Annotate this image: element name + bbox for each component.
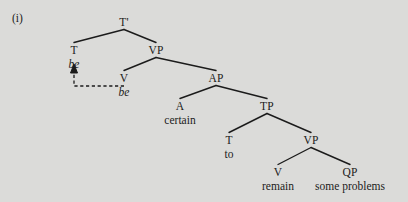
tree-node-v2: V: [274, 166, 283, 178]
tree-node-ap: AP: [208, 72, 223, 84]
tree-terminal-be-moved: be: [69, 58, 80, 70]
branch-ap-to-tp: [216, 86, 267, 99]
branch-vp2-to-qp: [311, 148, 350, 165]
tree-node-t1: T: [70, 44, 77, 56]
branch-tp-to-t2: [229, 114, 267, 133]
movement-dashed-line: [74, 73, 124, 86]
branch-tp-to-vp2: [267, 114, 311, 133]
branch-tbar-to-vp1: [124, 30, 156, 43]
tree-node-vp1: VP: [148, 44, 163, 56]
tree-node-tp: TP: [260, 100, 274, 112]
tree-node-tbar: T': [119, 16, 129, 28]
tree-node-t2: T: [225, 134, 232, 146]
tree-node-v1: V: [120, 72, 129, 84]
tree-terminal-certain: certain: [164, 114, 195, 126]
branch-tbar-to-t1: [74, 30, 124, 43]
tree-terminal-to: to: [225, 148, 234, 160]
tree-node-vp2: VP: [303, 134, 318, 146]
branch-vp1-to-v1: [124, 58, 156, 71]
tree-terminal-remain: remain: [262, 180, 294, 192]
tree-node-a: A: [176, 100, 185, 112]
tree-terminal-some-problems: some problems: [315, 180, 385, 192]
branch-vp1-to-ap: [156, 58, 216, 71]
tree-terminal-be-trace: be: [119, 86, 130, 98]
tree-node-qp: QP: [342, 166, 357, 178]
syntax-tree-figure: (i) T'TVPVAPATPTVPVQP bebecertaintoremai…: [0, 0, 408, 202]
branch-vp2-to-v2: [278, 148, 311, 165]
branch-ap-to-a: [180, 86, 216, 99]
